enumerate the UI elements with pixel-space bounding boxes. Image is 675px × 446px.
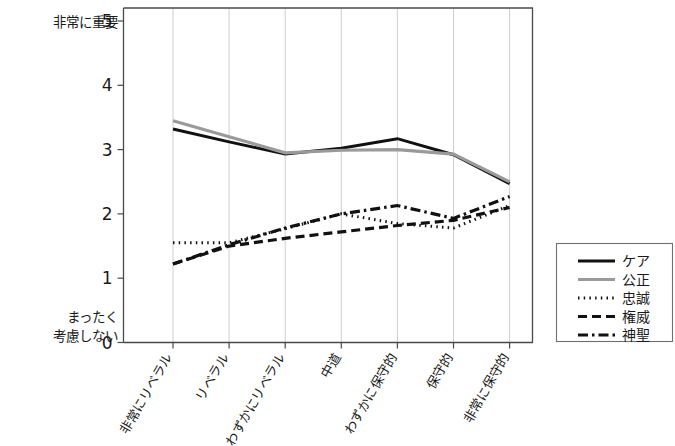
x-tick-label: 非常にリベラル: [117, 351, 175, 437]
x-tick-label: 保守的: [424, 351, 456, 392]
y-axis-ticks: 012345: [102, 11, 124, 353]
y-tick-label: 2: [102, 204, 113, 224]
legend-label-3: 権威: [622, 309, 650, 325]
y-axis-top-caption: 非常に重要: [53, 14, 118, 30]
y-axis-bottom-caption-line1: まったく: [67, 309, 118, 325]
legend-items: ケア公正忠誠権威神聖: [578, 253, 650, 343]
legend-border: [557, 244, 673, 342]
legend-label-2: 忠誠: [622, 290, 650, 306]
x-tick-label: 非常に保守的: [460, 350, 512, 425]
y-tick-label: 4: [102, 75, 113, 95]
chart-legend: ケア公正忠誠権威神聖: [557, 244, 673, 344]
legend-label-0: ケア: [622, 253, 650, 269]
x-axis-tick-labels: 非常にリベラルリベラルわずかにリベラル中道わずかに保守的保守的非常に保守的: [117, 350, 512, 446]
y-axis-bottom-caption-line2: 考慮しない: [53, 328, 118, 344]
chart-container: 012345 非常に重要 まったく 考慮しない 非常にリベラルリベラルわずかにリ…: [0, 0, 675, 446]
x-tick-label: わずかにリベラル: [223, 351, 288, 446]
y-tick-label: 1: [102, 268, 113, 288]
legend-label-4: 神聖: [622, 327, 650, 343]
x-tick-label: 中道: [318, 351, 344, 381]
x-tick-label: わずかに保守的: [342, 351, 400, 437]
axes: [124, 8, 534, 343]
gridlines: [173, 8, 510, 343]
x-tick-label: リベラル: [193, 351, 232, 404]
legend-label-1: 公正: [622, 272, 650, 288]
y-tick-label: 3: [102, 140, 113, 160]
line-chart: 012345 非常に重要 まったく 考慮しない 非常にリベラルリベラルわずかにリ…: [0, 0, 675, 446]
x-axis-ticks: [173, 343, 510, 349]
